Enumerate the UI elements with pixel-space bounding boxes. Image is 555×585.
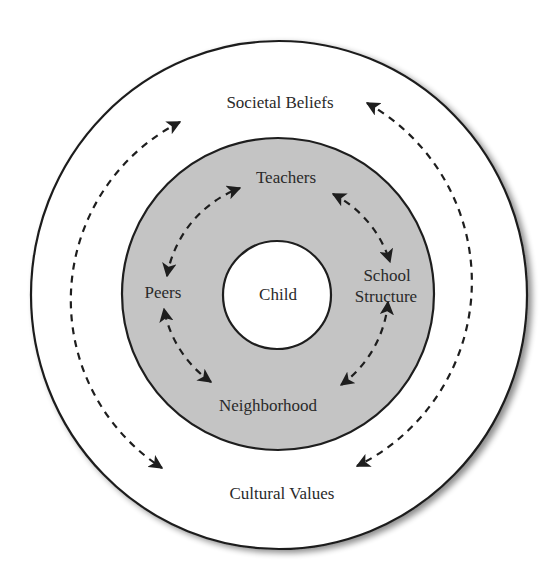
school-structure-label-line2: Structure [355,287,417,306]
neighborhood-label: Neighborhood [219,396,318,415]
societal-beliefs-label: Societal Beliefs [226,93,333,112]
teachers-label: Teachers [256,168,316,187]
school-structure-label-line1: School [363,266,411,285]
cultural-values-label: Cultural Values [230,484,335,503]
child-label: Child [259,285,297,304]
ecological-model-diagram: Societal Beliefs Cultural Values Teacher… [0,0,555,585]
peers-label: Peers [145,283,182,302]
